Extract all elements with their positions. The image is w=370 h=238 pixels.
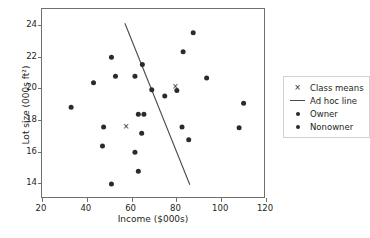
y-tick-mark [38, 183, 42, 184]
chart-legend: ×Class meansAd hoc lineOwnerNonowner [283, 76, 370, 138]
y-tick-label: 16 [26, 146, 37, 156]
dot-marker-icon [288, 125, 307, 129]
dot-marker-icon [288, 112, 307, 116]
y-axis-tick-labels: 141618202224 [0, 8, 37, 198]
legend-label: Class means [307, 83, 364, 93]
class-mean-marker: × [172, 82, 179, 91]
x-tick-label: 120 [257, 203, 273, 213]
data-point [140, 62, 145, 67]
y-tick-label: 22 [26, 51, 37, 61]
y-tick-label: 14 [26, 177, 37, 187]
x-tick-label: 100 [212, 203, 228, 213]
x-glyph: × [294, 84, 301, 92]
y-tick-label: 20 [26, 82, 37, 92]
data-point [162, 94, 167, 99]
dot-glyph [296, 112, 300, 116]
data-point [241, 101, 246, 106]
data-point [113, 74, 118, 79]
legend-label: Owner [307, 109, 338, 119]
class-mean-marker: × [123, 122, 130, 131]
x-tick-label: 60 [125, 203, 136, 213]
data-point [141, 112, 146, 117]
data-point [180, 124, 185, 129]
x-tick-label: 40 [80, 203, 91, 213]
y-tick-mark [38, 120, 42, 121]
y-tick-label: 18 [26, 114, 37, 124]
legend-item[interactable]: Ad hoc line [288, 94, 364, 107]
x-tick-label: 80 [170, 203, 181, 213]
legend-label: Nonowner [307, 122, 353, 132]
data-point [149, 87, 154, 92]
data-point [132, 150, 137, 155]
data-layer: ×× [42, 9, 266, 199]
legend-item[interactable]: ×Class means [288, 81, 364, 94]
y-tick-label: 24 [26, 19, 37, 29]
data-point [181, 49, 186, 54]
data-point [101, 124, 106, 129]
data-point [191, 30, 196, 35]
data-point [204, 75, 209, 80]
y-tick-mark [38, 25, 42, 26]
y-tick-mark [38, 88, 42, 89]
data-point [100, 143, 105, 148]
y-tick-mark [38, 152, 42, 153]
data-point [109, 55, 114, 60]
legend-item[interactable]: Nonowner [288, 120, 364, 133]
data-point [91, 80, 96, 85]
data-point [136, 169, 141, 174]
plot-area: ×× [41, 8, 265, 198]
line-segment-icon [288, 100, 307, 101]
legend-label: Ad hoc line [307, 96, 357, 106]
x-tick-label: 20 [36, 203, 47, 213]
legend-item[interactable]: Owner [288, 107, 364, 120]
x-axis-title: Income ($000s) [41, 214, 265, 224]
data-point [132, 74, 137, 79]
data-point [109, 181, 114, 186]
y-tick-mark [38, 57, 42, 58]
data-point [69, 105, 74, 110]
x-axis-tick-labels: 20406080100120 [41, 199, 265, 215]
x-tick-mark [266, 198, 267, 202]
ad-hoc-line [125, 23, 190, 185]
data-point [186, 137, 191, 142]
x-marker-icon: × [288, 84, 307, 92]
line-glyph [290, 100, 305, 101]
data-point [237, 125, 242, 130]
dot-glyph [296, 125, 300, 129]
data-point [136, 112, 141, 117]
data-point [139, 131, 144, 136]
